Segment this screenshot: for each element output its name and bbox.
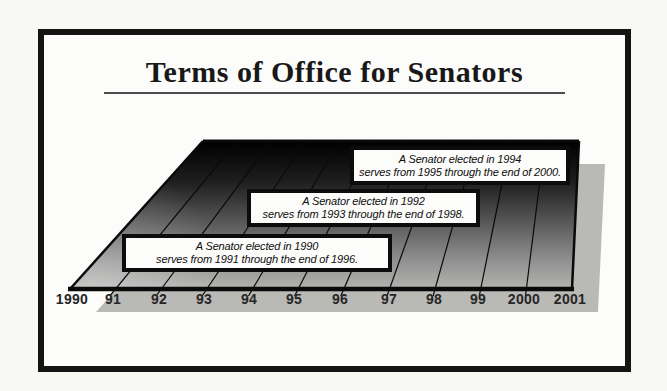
x-tick-1990: 1990 [56,291,88,307]
x-tick-1998: 98 [426,291,442,307]
x-tick-1999: 99 [470,291,486,307]
x-tick-1992: 92 [151,291,167,307]
term-box-1994: A Senator elected in 1994 serves from 19… [350,146,570,185]
term-box-1990-line1: A Senator elected in 1990 [126,240,388,253]
term-box-1992-line2: serves from 1993 through the end of 1998… [251,208,476,221]
term-box-1992: A Senator elected in 1992 serves from 19… [247,189,480,227]
x-tick-1991: 91 [105,291,121,307]
term-box-1992-line1: A Senator elected in 1992 [251,195,476,208]
x-tick-1996: 96 [332,291,348,307]
x-tick-1993: 93 [196,291,212,307]
x-tick-1997: 97 [381,291,397,307]
x-tick-2000: 2000 [508,291,540,307]
x-tick-1995: 95 [286,291,302,307]
term-box-1990-line2: serves from 1991 through the end of 1996… [126,253,388,266]
term-box-1990: A Senator elected in 1990 serves from 19… [122,234,392,272]
x-tick-1994: 94 [241,291,257,307]
x-tick-2001: 2001 [554,291,586,307]
term-box-1994-line1: A Senator elected in 1994 [354,153,566,166]
term-box-1994-line2: serves from 1995 through the end of 2000… [354,166,566,179]
